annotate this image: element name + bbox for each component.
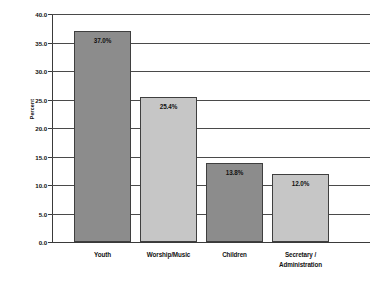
y-tick-mark [48,100,52,101]
y-tick-label: 25.0 [35,96,47,103]
y-tick-label: 20.0 [35,125,47,132]
y-tick-mark [48,185,52,186]
plot-area: 40.035.030.025.020.015.010.05.00.0 37.0%… [52,14,370,242]
x-axis-label-line: Youth [94,251,111,258]
y-tick-mark [48,157,52,158]
bar: 37.0% [74,31,131,242]
y-tick-label: 40.0 [35,11,47,18]
y-tick-label: 35.0 [35,39,47,46]
x-axis-label-line: Worship/Music [147,251,190,258]
x-axis-label-line: Children [222,251,247,258]
x-axis-label-line: Secretary / [285,251,316,258]
x-axis-label-line: Administration [254,260,347,270]
y-tick-mark [48,14,52,15]
bar-value-label: 13.8% [207,169,262,176]
y-tick-label: 15.0 [35,153,47,160]
bar: 25.4% [140,97,197,242]
gridline: 40.0 [52,14,370,15]
y-tick-mark [48,242,52,243]
x-axis-category-label: Secretary /Administration [254,250,347,270]
bar: 12.0% [272,174,329,242]
bar-value-label: 25.4% [141,103,196,110]
y-tick-label: 30.0 [35,68,47,75]
gridline: 0.0 [52,242,370,243]
y-tick-label: 10.0 [35,182,47,189]
y-tick-label: 0.0 [39,239,47,246]
bar-chart: Percent 40.035.030.025.020.015.010.05.00… [0,0,381,283]
bar: 13.8% [206,163,263,242]
bar-value-label: 12.0% [273,180,328,187]
y-tick-mark [48,128,52,129]
y-tick-mark [48,43,52,44]
bar-value-label: 37.0% [75,37,130,44]
y-axis-title: Percent [29,79,35,139]
y-tick-mark [48,214,52,215]
y-tick-mark [48,71,52,72]
y-tick-label: 5.0 [39,210,47,217]
